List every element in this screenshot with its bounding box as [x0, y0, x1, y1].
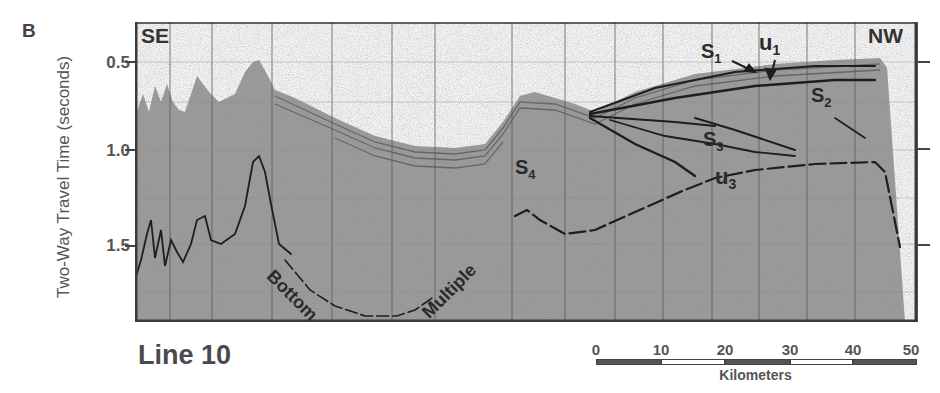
scale-bar: 0 10 20 30 40 50 Kilometers — [593, 341, 918, 391]
scale-segment-light — [790, 359, 853, 365]
panel-letter: B — [22, 20, 36, 42]
scale-tick-10: 10 — [653, 341, 670, 358]
scale-segment-light — [661, 359, 725, 365]
scale-segment-dark — [725, 359, 790, 365]
label-s2: S2 — [811, 84, 832, 110]
scale-tick-50: 50 — [903, 341, 920, 358]
y-tick-0-5: 0.5 — [86, 53, 130, 73]
label-s1: S1 — [701, 40, 722, 66]
line-title: Line 10 — [138, 340, 231, 371]
y-tick-1-5: 1.5 — [86, 236, 130, 256]
label-s4: S4 — [515, 156, 536, 182]
scale-unit-label: Kilometers — [593, 367, 918, 383]
scale-tick-20: 20 — [717, 341, 734, 358]
label-u1: u1 — [759, 30, 780, 58]
label-s3: S3 — [703, 128, 724, 154]
y-axis-label: Two-Way Travel Time (seconds) — [54, 58, 74, 298]
scale-tick-0: 0 — [592, 341, 600, 358]
left-tick-1-5 — [125, 245, 135, 247]
scale-tick-30: 30 — [782, 341, 799, 358]
right-tick-0-5 — [918, 61, 930, 63]
scale-tick-40: 40 — [845, 341, 862, 358]
y-tick-1-0: 1.0 — [86, 141, 130, 161]
right-tick-1-0 — [918, 148, 930, 150]
seismic-profile-plot: SE NW S1 u1 S2 S3 u3 S4 Bottom Multiple — [135, 22, 918, 322]
direction-label-se: SE — [141, 24, 169, 48]
right-tick-1-5 — [918, 244, 930, 246]
scale-segment-dark — [853, 359, 917, 365]
label-u3: u3 — [715, 164, 736, 192]
direction-label-nw: NW — [868, 24, 903, 48]
left-tick-1-0 — [125, 149, 135, 151]
scale-segment-dark — [596, 359, 661, 365]
left-tick-0-5 — [125, 61, 135, 63]
